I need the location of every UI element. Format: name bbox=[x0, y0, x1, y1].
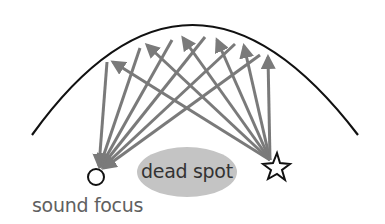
dome-acoustics-diagram bbox=[0, 0, 385, 224]
ray-up-6 bbox=[268, 57, 270, 160]
sound-focus-label: sound focus bbox=[32, 194, 143, 216]
ray-down-4 bbox=[102, 37, 205, 166]
sound-focus-circle bbox=[88, 169, 104, 185]
ray-down-5 bbox=[103, 44, 235, 167]
dead-spot-label: dead spot bbox=[141, 160, 233, 182]
